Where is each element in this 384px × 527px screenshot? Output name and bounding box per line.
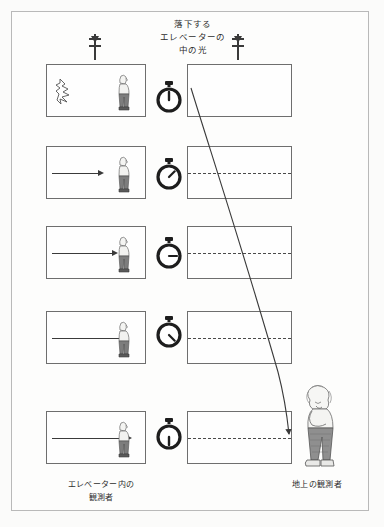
stopwatch-row-4 bbox=[154, 315, 184, 349]
ground-view-panel-row-3 bbox=[187, 226, 292, 279]
light-ray-head-row-2 bbox=[98, 170, 104, 176]
stopwatch-row-3 bbox=[154, 236, 184, 270]
figure-title-line-2: エレベーターの bbox=[118, 31, 268, 44]
light-flash-icon bbox=[55, 77, 77, 107]
elevator-observer-figure bbox=[115, 320, 133, 360]
elevator-observer-figure bbox=[115, 420, 133, 460]
fall-arrow-bar-upper bbox=[89, 38, 101, 40]
stopwatch-row-2 bbox=[154, 157, 184, 191]
dashed-reference-line-row-3 bbox=[188, 253, 291, 254]
elevator-panel-row-2 bbox=[46, 146, 146, 199]
light-ray-row-2 bbox=[52, 173, 100, 174]
elevator-panel-row-3 bbox=[46, 226, 146, 279]
elevator-panel-row-5 bbox=[46, 411, 146, 464]
elevator-panel-row-4 bbox=[46, 311, 146, 364]
elevator-observer-figure bbox=[115, 235, 133, 275]
elevator-observer-figure bbox=[115, 73, 133, 113]
figure-canvas: 落下する エレベーターの 中の光 bbox=[0, 0, 384, 527]
figure-title-line-3: 中の光 bbox=[118, 44, 268, 57]
stopwatch-row-5 bbox=[154, 417, 184, 451]
fall-arrow-bar-lower bbox=[89, 45, 101, 47]
ground-observer-figure bbox=[296, 384, 342, 476]
dashed-reference-line-row-5 bbox=[188, 438, 291, 439]
elevator-observer-figure bbox=[115, 155, 133, 195]
light-ray-row-4 bbox=[52, 338, 122, 339]
figure-title-line-1: 落下する bbox=[118, 18, 268, 31]
dashed-reference-line-row-2 bbox=[188, 173, 291, 174]
dashed-reference-line-row-4 bbox=[188, 338, 291, 339]
caption-elevator-line-1: エレベーター内の bbox=[56, 478, 146, 491]
light-ray-row-3 bbox=[52, 253, 114, 254]
ground-view-panel-row-5 bbox=[187, 411, 292, 464]
ground-view-panel-row-2 bbox=[187, 146, 292, 199]
right-column-fall-arrow bbox=[231, 34, 245, 62]
caption-ground-observer: 地上の観測者 bbox=[274, 478, 360, 491]
caption-elevator-line-2: 観測者 bbox=[56, 491, 146, 504]
figure-title: 落下する エレベーターの 中の光 bbox=[118, 18, 268, 57]
ground-view-panel-row-1 bbox=[187, 64, 292, 117]
fall-arrow-bar-lower bbox=[232, 45, 244, 47]
caption-elevator-observer: エレベーター内の 観測者 bbox=[56, 478, 146, 504]
stopwatch-row-1 bbox=[154, 80, 184, 114]
caption-ground-line-1: 地上の観測者 bbox=[274, 478, 360, 491]
elevator-panel-row-1 bbox=[46, 64, 146, 117]
fall-arrow-bar-upper bbox=[232, 38, 244, 40]
ground-view-panel-row-4 bbox=[187, 311, 292, 364]
left-column-fall-arrow bbox=[88, 34, 102, 62]
